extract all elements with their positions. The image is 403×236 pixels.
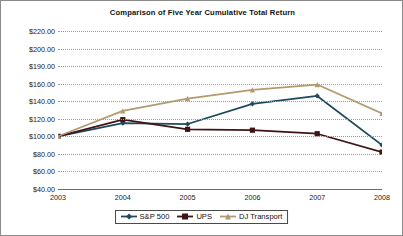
x-axis-tick-label: 2003 xyxy=(33,193,83,202)
y-axis-tick-label: $140.00 xyxy=(6,97,55,106)
legend-item: S&P 500 xyxy=(121,212,170,221)
gridline xyxy=(58,31,382,32)
legend-item-label: S&P 500 xyxy=(140,212,170,221)
legend-item: UPS xyxy=(177,212,212,221)
y-axis-labels: $220.00$200.00$190.00$160.00$140.00$120.… xyxy=(3,31,55,189)
x-axis-line xyxy=(58,189,382,190)
y-axis-tick-label: $120.00 xyxy=(6,114,55,123)
diamond-marker-icon xyxy=(121,212,137,221)
x-axis-tick-label: 2004 xyxy=(98,193,148,202)
gridline xyxy=(58,84,382,85)
gridline xyxy=(58,136,382,137)
y-axis-tick-label: $220.00 xyxy=(6,27,55,36)
x-axis-tick-label: 2005 xyxy=(163,193,213,202)
chart-container: Comparison of Five Year Cumulative Total… xyxy=(0,0,403,236)
y-axis-tick-label: $60.00 xyxy=(6,167,55,176)
y-axis-tick-label: $160.00 xyxy=(6,79,55,88)
chart-legend: S&P 500UPSDJ Transport xyxy=(115,210,289,224)
data-point-marker xyxy=(185,127,190,132)
legend-item-label: DJ Transport xyxy=(239,212,282,221)
gridline xyxy=(58,49,382,50)
y-axis-tick-label: $190.00 xyxy=(6,62,55,71)
x-axis-tick-label: 2008 xyxy=(357,193,403,202)
gridline xyxy=(58,66,382,67)
gridline xyxy=(58,154,382,155)
data-point-marker xyxy=(185,121,190,126)
x-axis-tick-label: 2006 xyxy=(227,193,277,202)
triangle-marker-icon xyxy=(220,212,236,221)
legend-item: DJ Transport xyxy=(220,212,282,221)
square-marker-icon xyxy=(177,212,193,221)
x-axis-tick-label: 2007 xyxy=(292,193,342,202)
y-axis-tick-label: $100.00 xyxy=(6,132,55,141)
gridline xyxy=(58,119,382,120)
gridline xyxy=(58,101,382,102)
gridline xyxy=(58,171,382,172)
x-axis-labels: 200320042005200620072008 xyxy=(58,193,382,207)
legend-item-label: UPS xyxy=(196,212,212,221)
y-axis-tick-label: $80.00 xyxy=(6,149,55,158)
series-lines xyxy=(58,31,382,189)
chart-title: Comparison of Five Year Cumulative Total… xyxy=(1,8,403,17)
series-line xyxy=(58,85,382,137)
data-point-marker xyxy=(250,128,255,133)
plot-area xyxy=(58,31,382,189)
y-axis-tick-label: $200.00 xyxy=(6,44,55,53)
